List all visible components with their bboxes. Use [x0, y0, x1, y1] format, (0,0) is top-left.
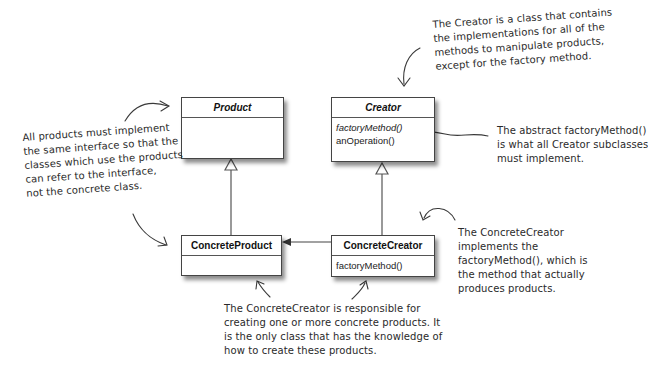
method-list: factoryMethod()	[332, 256, 434, 275]
products-interface-note: All products must implement the same int…	[22, 120, 185, 201]
method-an-operation: anOperation()	[336, 134, 430, 147]
class-concrete-creator[interactable]: ConcreteCreator factoryMethod()	[331, 235, 435, 277]
class-creator[interactable]: Creator factoryMethod() anOperation()	[331, 97, 435, 162]
hollow-triangle-icon	[376, 163, 388, 174]
method-factory-method: factoryMethod()	[336, 259, 430, 272]
method-factory-method: factoryMethod()	[336, 121, 430, 134]
hollow-triangle-icon	[225, 159, 237, 170]
factory-method-diagram: Product Creator factoryMethod() anOperat…	[0, 0, 648, 387]
class-name: Product	[182, 98, 283, 118]
abstract-method-note: The abstract factoryMethod() is what all…	[497, 124, 648, 166]
concrete-creator-note: The ConcreteCreator implements the facto…	[458, 226, 588, 296]
class-name: ConcreteCreator	[332, 236, 434, 256]
class-name: Creator	[332, 98, 434, 118]
class-concrete-product[interactable]: ConcreteProduct	[181, 235, 282, 276]
class-name: ConcreteProduct	[182, 236, 281, 256]
method-list: factoryMethod() anOperation()	[332, 118, 434, 150]
responsibility-note: The ConcreteCreator is responsible for c…	[224, 302, 442, 358]
filled-arrowhead-icon	[282, 238, 291, 246]
class-product[interactable]: Product	[181, 97, 284, 159]
